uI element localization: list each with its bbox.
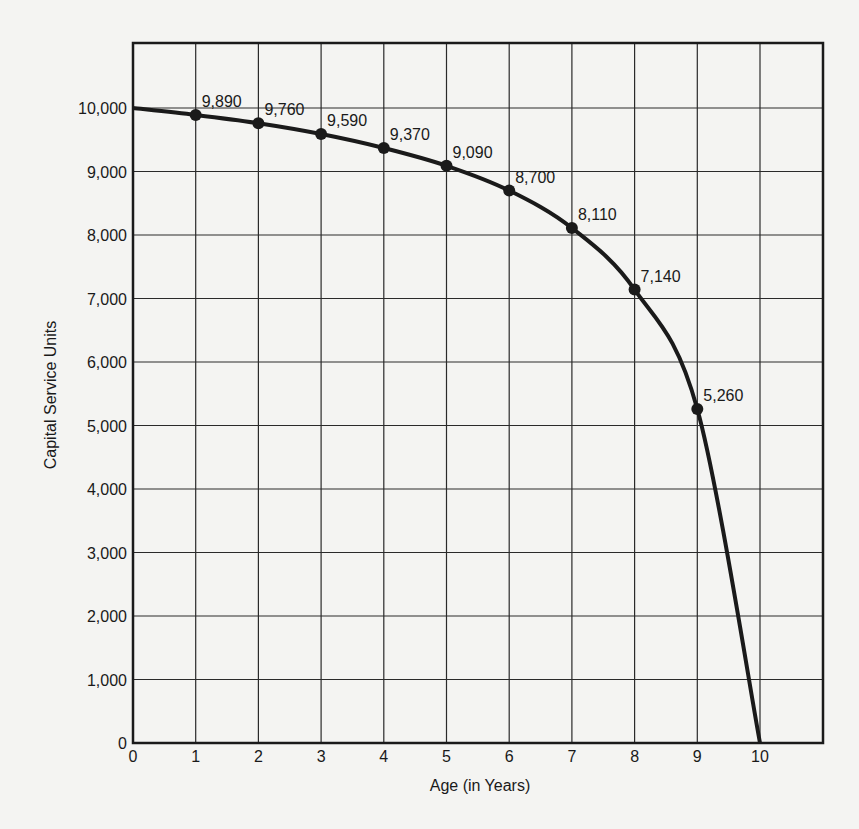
data-point-label: 9,760 [264,101,304,118]
y-tick-label: 9,000 [87,164,127,181]
data-point-marker [315,128,327,140]
data-point-marker [252,117,264,129]
x-axis-title: Age (in Years) [430,777,531,794]
x-tick-label: 3 [317,748,326,765]
y-tick-label: 8,000 [87,227,127,244]
y-tick-label: 2,000 [87,608,127,625]
x-tick-label: 1 [191,748,200,765]
x-axis-ticks: 012345678910 [129,748,769,765]
x-tick-label: 0 [129,748,138,765]
y-axis-ticks: 01,0002,0003,0004,0005,0006,0007,0008,00… [78,100,127,752]
data-point-label: 8,700 [515,169,555,186]
y-tick-label: 4,000 [87,481,127,498]
y-tick-label: 3,000 [87,545,127,562]
data-point-label: 9,890 [202,93,242,110]
capital-service-chart: 01,0002,0003,0004,0005,0006,0007,0008,00… [0,0,859,829]
data-point-marker [691,403,703,415]
data-point-label: 5,260 [703,387,743,404]
data-point-label: 9,590 [327,112,367,129]
x-tick-label: 6 [505,748,514,765]
data-point-marker [629,284,641,296]
data-point-marker [503,185,515,197]
data-points: 9,8909,7609,5909,3709,0908,7008,1107,140… [190,93,744,415]
data-point-label: 9,370 [390,126,430,143]
x-tick-label: 7 [567,748,576,765]
data-point-marker [566,222,578,234]
x-tick-label: 9 [693,748,702,765]
data-point-label: 9,090 [453,144,493,161]
x-tick-label: 2 [254,748,263,765]
x-tick-label: 8 [630,748,639,765]
data-point-marker [378,142,390,154]
y-tick-label: 5,000 [87,418,127,435]
x-tick-label: 4 [379,748,388,765]
x-tick-label: 10 [751,748,769,765]
y-tick-label: 10,000 [78,100,127,117]
data-point-marker [190,109,202,121]
data-point-label: 7,140 [641,268,681,285]
data-point-label: 8,110 [578,206,617,223]
y-tick-label: 1,000 [87,672,127,689]
x-tick-label: 5 [442,748,451,765]
data-point-marker [441,160,453,172]
y-tick-label: 7,000 [87,291,127,308]
y-axis-title: Capital Service Units [42,321,59,470]
y-tick-label: 6,000 [87,354,127,371]
y-tick-label: 0 [118,735,127,752]
